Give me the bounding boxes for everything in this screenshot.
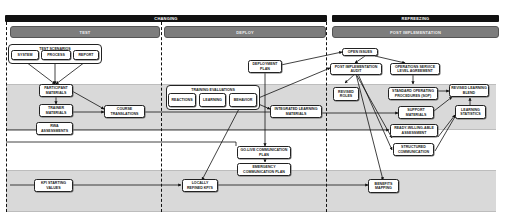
node-revised-roles[interactable]: REVISED ROLES (333, 87, 359, 101)
connector-lines (0, 0, 527, 220)
node-operations-service-level-agreement[interactable]: OPERATIONS SERVICE LEVEL AGREEMENT (390, 63, 440, 75)
node-open-issues[interactable]: OPEN ISSUES (342, 48, 378, 56)
node-process[interactable]: PROCESS (41, 50, 71, 60)
node-behavior[interactable]: BEHAVIOR (229, 93, 257, 107)
node-learning[interactable]: LEARNING (199, 93, 226, 107)
node-learning-statistics[interactable]: LEARNING STATISTICS (455, 105, 486, 119)
node-revised-learning-blend[interactable]: REVISED LEARNING BLEND (449, 84, 489, 97)
node-deployment-plan[interactable]: DEPLOYMENT PLAN (248, 60, 282, 73)
node-ready-willing-able-assessment[interactable]: READY-WILLING-ABLE ASSESSMENT (390, 124, 438, 137)
node-structured-communication[interactable]: STRUCTURED COMMUNICATION (393, 143, 434, 156)
node-course-translations[interactable]: COURSE TRANSLATIONS (104, 105, 145, 118)
node-integrated-learning-materials[interactable]: INTEGRATED LEARNING MATERIALS (270, 105, 322, 118)
node-support-materials[interactable]: SUPPORT MATERIALS (398, 106, 434, 119)
node-rwa-assessments[interactable]: RWA ASSESSMENTS (36, 122, 73, 135)
node-report[interactable]: REPORT (73, 50, 99, 60)
group-training-evaluations-title: TRAINING EVALUATIONS (167, 88, 259, 92)
node-system[interactable]: SYSTEM (11, 50, 39, 60)
node-reactions[interactable]: REACTIONS (168, 93, 196, 107)
node-locally-refined-kpis[interactable]: LOCALLY REFINED KPI'S (182, 179, 218, 192)
node-participant-materials[interactable]: PARTICIPANT MATERIALS (39, 84, 73, 97)
node-post-implementation-audit[interactable]: POST IMPLEMENTATION AUDIT (330, 63, 382, 75)
node-trainer-materials[interactable]: TRAINER MATERIALS (39, 104, 73, 117)
node-benefits-mapping[interactable]: BENEFITS MAPPING (368, 179, 399, 193)
node-emergency-communication-plan[interactable]: EMERGENCY COMMUNICATION PLAN (237, 163, 291, 176)
node-go-live-communication-plan[interactable]: GO-LIVE COMMUNICATION PLAN (237, 146, 291, 159)
node-standard-operating-procedures[interactable]: STANDARD OPERATING PROCEDURES (SOP) (388, 87, 438, 100)
node-kpi-starting-values[interactable]: KPI STARTING VALUES (34, 179, 73, 192)
